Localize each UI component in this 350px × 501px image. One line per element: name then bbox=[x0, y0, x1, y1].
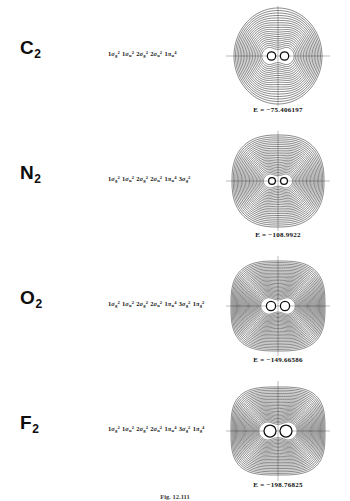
config-term: 1πg4 bbox=[193, 425, 205, 432]
energy-label: E = −108.9922 bbox=[224, 231, 332, 239]
energy-label: E = −75.406197 bbox=[224, 106, 332, 114]
config-term: 1πu4 bbox=[164, 175, 176, 182]
molecule-label: O2 bbox=[20, 288, 42, 310]
energy-label: E = −198.76825 bbox=[224, 481, 332, 489]
config-term: 2σu2 bbox=[150, 175, 162, 182]
config-term: 1σg2 bbox=[108, 175, 120, 182]
electron-density-contour-plot bbox=[224, 129, 332, 233]
molecule-label: C2 bbox=[20, 38, 41, 60]
config-term: 1σg2 bbox=[108, 425, 120, 432]
config-term: 1σg2 bbox=[108, 300, 120, 307]
electron-configuration: 1σg21σu22σg22σu21πu43σg21πg4 bbox=[108, 425, 207, 433]
electron-density-contour-plot bbox=[224, 379, 332, 483]
config-term: 2σu2 bbox=[150, 425, 162, 432]
config-term: 1σg2 bbox=[108, 50, 120, 57]
electron-configuration: 1σg21σu22σg22σu21πu43σg21πg2 bbox=[108, 300, 207, 308]
config-term: 2σu2 bbox=[150, 300, 162, 307]
config-term: 2σu2 bbox=[150, 50, 162, 57]
molecule-label: N2 bbox=[20, 163, 41, 185]
electron-density-contour-plot bbox=[224, 254, 332, 358]
config-term: 1σu2 bbox=[122, 175, 134, 182]
config-term: 2σg2 bbox=[136, 425, 148, 432]
electron-configuration: 1σg21σu22σg22σu21πu43σg2 bbox=[108, 175, 193, 183]
config-term: 1πu4 bbox=[164, 300, 176, 307]
molecule-row: O21σg21σu22σg22σu21πu43σg21πg2E = −149.6… bbox=[0, 250, 350, 375]
figure-caption: Fig. 12.111 bbox=[0, 493, 350, 501]
config-term: 1πu4 bbox=[164, 425, 176, 432]
molecule-row: F21σg21σu22σg22σu21πu43σg21πg4E = −198.7… bbox=[0, 375, 350, 500]
energy-label: E = −149.66586 bbox=[224, 356, 332, 364]
config-term: 2σg2 bbox=[136, 50, 148, 57]
config-term: 3σg2 bbox=[179, 300, 191, 307]
molecule-row: C21σg21σu22σg22σu21πu4E = −75.406197 bbox=[0, 0, 350, 125]
config-term: 3σg2 bbox=[179, 175, 191, 182]
config-term: 1σu2 bbox=[122, 425, 134, 432]
electron-density-contour-plot bbox=[224, 4, 332, 108]
electron-configuration: 1σg21σu22σg22σu21πu4 bbox=[108, 50, 179, 58]
config-term: 1σu2 bbox=[122, 50, 134, 57]
config-term: 2σg2 bbox=[136, 175, 148, 182]
molecule-row: N21σg21σu22σg22σu21πu43σg2E = −108.9922 bbox=[0, 125, 350, 250]
config-term: 1πg2 bbox=[193, 300, 205, 307]
config-term: 1σu2 bbox=[122, 300, 134, 307]
molecule-label: F2 bbox=[20, 413, 39, 435]
config-term: 2σg2 bbox=[136, 300, 148, 307]
electron-density-figure: C21σg21σu22σg22σu21πu4E = −75.406197N21σ… bbox=[0, 0, 350, 501]
config-term: 1πu4 bbox=[164, 50, 176, 57]
config-term: 3σg2 bbox=[179, 425, 191, 432]
